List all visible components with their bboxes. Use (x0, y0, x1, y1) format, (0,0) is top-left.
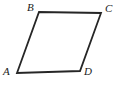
vertex-label-c: C (105, 3, 112, 14)
parallelogram-outline (17, 12, 101, 73)
vertex-label-d: D (84, 66, 92, 77)
vertex-label-a: A (3, 66, 10, 77)
vertex-label-b: B (27, 2, 34, 13)
parallelogram-shape (0, 0, 119, 85)
geometry-figure: A B C D (0, 0, 119, 85)
